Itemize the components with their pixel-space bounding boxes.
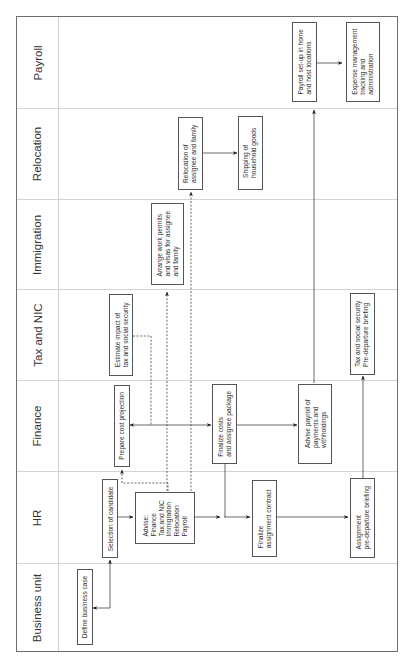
node-selection-of-candidate: Selection of candidate (102, 479, 118, 558)
node-text: Finalize costs and assignee package (217, 391, 233, 457)
node-text: Shipping of household goods (243, 128, 259, 178)
node-estimate-tax-impact: Estimate impact of tax and social securi… (109, 294, 133, 376)
node-text: Estimate impact of tax and social securi… (113, 303, 129, 368)
node-text: Tax and social security Pre-departure br… (355, 301, 371, 367)
node-finalize-assignment-contract: Finalize assignment contract (252, 480, 277, 557)
node-text: Prepare cost projection (118, 392, 126, 460)
node-text: Arrange work permits and visas for assig… (156, 211, 179, 277)
node-text: Advise payroll of payments and withholdi… (303, 400, 326, 448)
node-tax-briefing: Tax and social security Pre-departure br… (350, 293, 375, 375)
node-work-permits: Arrange work permits and visas for assig… (151, 203, 184, 285)
node-expense-management: Expense management tracking and administ… (346, 22, 380, 102)
node-advise-payroll: Advise payroll of payments and withholdi… (298, 384, 332, 464)
node-text: Advise: Finance Tax and NIC Immigration … (142, 500, 189, 536)
node-text: Define business case (81, 576, 89, 639)
node-text: Expense management tracking and administ… (351, 29, 374, 95)
node-text: Relocation of assignee and family (183, 124, 199, 182)
node-text: Payroll set-up in home and host location… (297, 29, 313, 95)
node-advise: Advise: Finance Tax and NIC Immigration … (135, 492, 195, 544)
node-define-business-case: Define business case (77, 569, 93, 645)
node-payroll-setup: Payroll set-up in home and host location… (292, 22, 317, 102)
node-finalize-costs: Finalize costs and assignee package (212, 384, 237, 464)
node-shipping-household-goods: Shipping of household goods (238, 116, 263, 190)
node-text: Selection of candidate (106, 486, 114, 551)
node-relocation-of-assignee: Relocation of assignee and family (178, 117, 203, 190)
node-prepare-cost-projection: Prepare cost projection (114, 385, 130, 467)
node-assignment-briefing: Assignment pre-departure briefing (350, 478, 375, 558)
node-text: Assignment pre-departure briefing (355, 486, 371, 549)
node-text: Finalize assignment contract (257, 489, 273, 548)
